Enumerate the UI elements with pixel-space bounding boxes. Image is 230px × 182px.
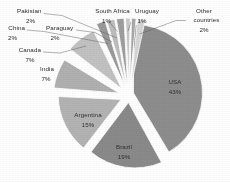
label-canada-pct: 7% xyxy=(25,56,35,63)
label-china-name: China xyxy=(8,24,25,31)
label-pakistan-pct: 2% xyxy=(26,17,36,24)
label-china-pct: 2% xyxy=(8,34,18,41)
label-uruguay-name: Uruguay xyxy=(135,7,160,14)
label-other-countries-name-line1: Other xyxy=(196,7,212,14)
label-paraguay-pct: 2% xyxy=(50,34,60,41)
label-pakistan-name: Pakistan xyxy=(17,7,42,14)
label-south-africa-pct: 1% xyxy=(102,17,112,24)
label-brazil-pct: 19% xyxy=(118,153,131,160)
label-other-countries-name-line2: countries xyxy=(193,16,219,23)
label-argentina-name: Argentina xyxy=(74,111,102,118)
label-india-pct: 7% xyxy=(41,75,51,82)
pie-chart-figure: Pakistan 2% China 2% Paraguay 2% Canada … xyxy=(0,0,230,182)
label-argentina-pct: 15% xyxy=(82,121,95,128)
label-canada-name: Canada xyxy=(19,46,42,53)
label-usa-name: USA xyxy=(168,78,182,85)
pie-chart-canvas: Pakistan 2% China 2% Paraguay 2% Canada … xyxy=(0,0,230,182)
label-india-name: India xyxy=(40,65,54,72)
label-paraguay-name: Paraguay xyxy=(46,24,74,31)
label-usa-pct: 43% xyxy=(169,88,182,95)
label-uruguay-pct: 1% xyxy=(137,17,147,24)
label-other-countries-pct: 2% xyxy=(199,26,209,33)
label-south-africa-name: South Africa xyxy=(95,7,130,14)
label-brazil-name: Brazil xyxy=(116,143,132,150)
